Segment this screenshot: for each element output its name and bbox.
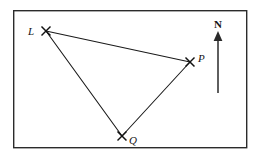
diagram-canvas: L P Q N: [0, 0, 259, 158]
vertex-label-l: L: [27, 25, 34, 37]
vertex-label-p: P: [197, 52, 205, 64]
vertex-label-q: Q: [129, 134, 137, 146]
north-label: N: [214, 18, 222, 30]
bearings-triangle-figure: L P Q N: [0, 0, 259, 158]
